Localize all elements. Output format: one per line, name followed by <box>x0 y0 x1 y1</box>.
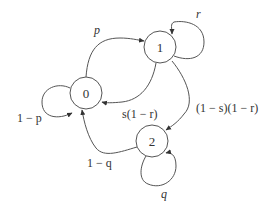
state-1-label: 1 <box>157 40 164 55</box>
label-p: p <box>93 23 100 37</box>
edge-1-to-0 <box>102 63 156 103</box>
label-r: r <box>196 7 201 21</box>
edge-1-self-loop <box>172 22 205 59</box>
markov-chain-diagram: 0 1 2 p 1 − p r s(1 − r) (1 − s)(1 − r) … <box>0 0 268 212</box>
edge-0-self-loop <box>42 86 72 117</box>
label-1-minus-p: 1 − p <box>17 111 42 125</box>
state-2-label: 2 <box>149 134 156 149</box>
state-1: 1 <box>144 31 176 63</box>
state-2: 2 <box>136 125 168 157</box>
state-0-label: 0 <box>83 86 90 101</box>
edge-1-to-2 <box>166 61 189 130</box>
edge-0-to-1 <box>86 38 144 77</box>
edge-2-self-loop <box>141 153 176 186</box>
label-s-1-minus-r: s(1 − r) <box>122 107 157 121</box>
label-1-minus-q: 1 − q <box>87 156 112 170</box>
label-q: q <box>161 187 167 201</box>
state-0: 0 <box>70 77 102 109</box>
label-1-minus-s-1-minus-r: (1 − s)(1 − r) <box>196 101 258 115</box>
